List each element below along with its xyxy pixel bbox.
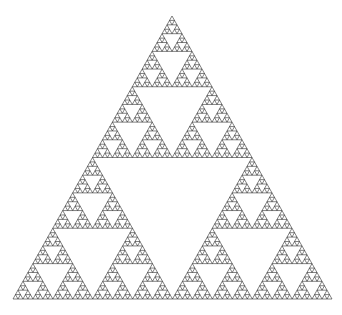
- sierpinski-triangle-figure: [0, 0, 342, 315]
- figure-canvas: [0, 0, 342, 315]
